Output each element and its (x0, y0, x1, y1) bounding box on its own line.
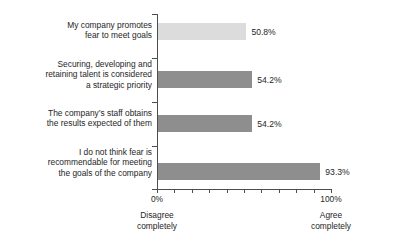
x-axis-start-caption: Disagree completely (137, 210, 177, 232)
y-axis-tick (152, 146, 157, 147)
x-axis-tick (261, 189, 262, 193)
bar-3 (158, 163, 320, 180)
bar-value-0: 50.8% (251, 27, 275, 37)
x-axis-tick (331, 189, 332, 193)
x-axis-tick (209, 189, 210, 193)
y-axis-tick (152, 58, 157, 59)
bar-1 (158, 71, 252, 88)
category-label-2: The company’s staff obtains the results … (12, 108, 152, 129)
x-axis-end-caption: Agree completely (311, 210, 351, 232)
x-axis-tick (192, 189, 193, 193)
x-axis-tick (314, 189, 315, 193)
x-axis-tick (296, 189, 297, 193)
x-axis-start-tick-label: 0% (151, 194, 163, 205)
bar-value-1: 54.2% (257, 75, 281, 85)
x-axis-tick (157, 189, 158, 193)
x-axis-end-tick-label: 100% (320, 194, 341, 205)
category-label-1: Securing, developing and retaining talen… (12, 59, 152, 90)
bar-chart: My company promotes fear to meet goals S… (0, 0, 400, 248)
x-axis-tick (244, 189, 245, 193)
category-label-0: My company promotes fear to meet goals (12, 20, 152, 41)
x-axis-tick (279, 189, 280, 193)
x-axis-tick (174, 189, 175, 193)
category-label-3: I do not think fear is recommendable for… (12, 147, 152, 178)
x-axis-tick (227, 189, 228, 193)
y-axis-tick (152, 102, 157, 103)
bar-0 (158, 23, 246, 40)
bar-value-2: 54.2% (257, 119, 281, 129)
bar-value-3: 93.3% (325, 167, 349, 177)
y-axis-tick (152, 14, 157, 15)
bar-2 (158, 115, 252, 132)
